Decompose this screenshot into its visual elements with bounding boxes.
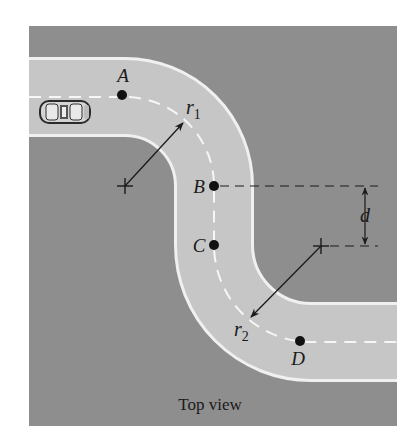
sports-car-icon [40,101,90,123]
point-c-dot [209,240,219,250]
caption-top-view: Top view [178,395,242,414]
point-a-label: A [115,65,129,86]
point-c-label: C [193,235,206,256]
dimension-d-label: d [360,204,371,226]
point-a-dot [117,90,127,100]
road-diagram: d r1 r2 A B C D Top view [0,0,415,445]
point-b-dot [209,181,219,191]
point-b-label: B [193,176,205,197]
point-d-label: D [290,348,305,369]
point-d-dot [295,336,305,346]
